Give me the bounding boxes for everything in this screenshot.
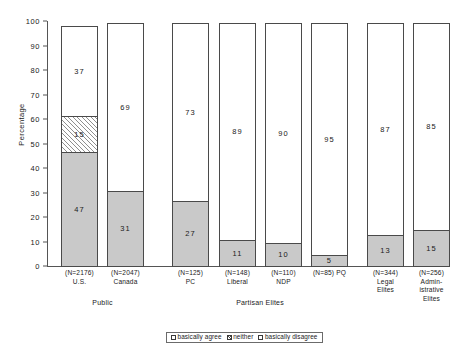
bar-segment-value: 90	[278, 130, 289, 138]
y-axis-line	[47, 21, 48, 267]
legend-item-agree[interactable]: basically agree	[171, 334, 222, 340]
bar-segment-disagree: 95	[311, 23, 348, 256]
x-label-sample-size: (N=85) PQ	[302, 269, 358, 278]
legend-label: neither	[233, 334, 253, 340]
bar-segment-agree: 5	[311, 255, 348, 267]
bar-segment-disagree: 73	[172, 23, 209, 202]
y-axis-tick-label: 80	[30, 66, 40, 75]
bar-pq: 595	[311, 21, 348, 266]
legend-label: basically disagree	[265, 334, 318, 340]
bar-administrative-elites: 1585	[413, 21, 450, 266]
legend-item-neither[interactable]: neither	[227, 334, 254, 340]
bar-segment-value: 47	[74, 206, 85, 214]
y-axis-tick-label: 30	[30, 188, 40, 197]
x-axis-label: (N=2047)Canada	[98, 269, 154, 286]
stacked-bar-chart: Percentage 1009080706050403020100 471537…	[0, 0, 454, 357]
plot-area: 471537316927731189109059513871585	[47, 21, 449, 267]
bar-segment-value: 27	[185, 230, 196, 238]
bar-segment-value: 89	[232, 128, 243, 136]
bar-segment-agree: 10	[265, 243, 302, 268]
bar-segment-agree: 27	[172, 201, 209, 267]
group-label-group: PublicPartisan Elites	[47, 299, 449, 315]
x-label-sample-size: (N=2047)	[98, 269, 154, 278]
bar-legal-elites: 1387	[367, 21, 404, 266]
legend-swatch-disagree-icon	[258, 335, 263, 340]
chart-legend: basically agreeneitherbasically disagree	[166, 332, 323, 343]
bar-segment-value: 73	[185, 109, 196, 117]
x-label-name: istrative	[404, 286, 454, 295]
bar-pc: 2773	[172, 21, 209, 266]
y-axis-tick-label: 40	[30, 164, 40, 173]
bar-segment-value: 85	[426, 123, 437, 131]
bar-segment-agree: 31	[107, 191, 144, 267]
y-axis-tick-label: 10	[30, 237, 40, 246]
bar-u-s: 471537	[61, 21, 98, 266]
bar-canada: 3169	[107, 21, 144, 266]
bar-segment-value: 15	[74, 131, 85, 139]
bar-segment-agree: 13	[367, 235, 404, 267]
bar-segment-value: 87	[380, 126, 391, 134]
y-axis-tick-group: 1009080706050403020100	[0, 0, 48, 357]
y-axis-tick-label: 90	[30, 41, 40, 50]
y-axis-tick-label: 70	[30, 90, 40, 99]
bar-segment-agree: 11	[219, 240, 256, 267]
bar-segment-value: 37	[74, 68, 85, 76]
x-label-name: Admin-	[404, 278, 454, 287]
bar-segment-disagree: 89	[219, 23, 256, 241]
x-label-sample-size: (N=256)	[404, 269, 454, 278]
x-label-name: NDP	[256, 278, 312, 287]
bar-segment-disagree: 87	[367, 23, 404, 236]
x-axis-label: (N=85) PQ	[302, 269, 358, 278]
legend-swatch-agree-icon	[171, 335, 176, 340]
bar-segment-value: 95	[324, 136, 335, 144]
bar-segment-agree: 47	[61, 152, 98, 267]
bar-segment-neither: 15	[61, 116, 98, 153]
legend-label: basically agree	[178, 334, 222, 340]
bar-segment-value: 31	[120, 225, 131, 233]
x-label-name: Canada	[98, 278, 154, 287]
bar-segment-agree: 15	[413, 230, 450, 267]
bar-segment-value: 13	[380, 247, 391, 255]
bar-segment-disagree: 85	[413, 23, 450, 231]
group-label: Public	[92, 299, 112, 306]
bar-segment-disagree: 69	[107, 23, 144, 192]
bar-segment-disagree: 37	[61, 26, 98, 117]
bar-segment-value: 69	[120, 104, 131, 112]
bar-segment-value: 10	[278, 251, 289, 259]
bar-ndp: 1090	[265, 21, 302, 266]
bar-segment-disagree: 90	[265, 23, 302, 244]
y-axis-tick-label: 0	[35, 262, 40, 271]
bar-segment-value: 15	[426, 245, 437, 253]
y-axis-tick-label: 50	[30, 139, 40, 148]
group-label: Partisan Elites	[236, 299, 284, 306]
legend-swatch-neither-icon	[227, 335, 232, 340]
bar-liberal: 1189	[219, 21, 256, 266]
bar-segment-value: 5	[327, 257, 332, 265]
y-axis-tick-label: 100	[26, 17, 40, 26]
legend-item-disagree[interactable]: basically disagree	[258, 334, 317, 340]
bar-segment-value: 11	[232, 250, 242, 258]
y-axis-tick-label: 20	[30, 213, 40, 222]
y-axis-tick-label: 60	[30, 115, 40, 124]
